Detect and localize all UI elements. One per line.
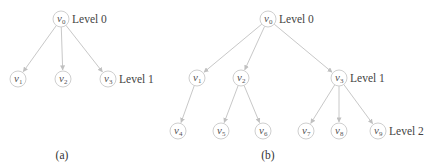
edge-v1-v4 bbox=[181, 86, 194, 123]
node-v3: v3 bbox=[331, 70, 347, 86]
nodes-layer: v0v1v2v3v0v1v2v3v4v5v6v7v8v9 bbox=[10, 11, 386, 139]
node-v7: v7 bbox=[298, 123, 314, 139]
node-v2: v2 bbox=[233, 70, 249, 86]
node-v4: v4 bbox=[170, 123, 186, 139]
node-v6: v6 bbox=[255, 123, 271, 139]
edge-v0-v2 bbox=[245, 26, 265, 70]
edge-v0-v1 bbox=[23, 26, 56, 72]
caption-b: (b) bbox=[261, 149, 275, 162]
node-v1: v1 bbox=[10, 71, 26, 87]
node-v5: v5 bbox=[213, 123, 229, 139]
edge-v2-v5 bbox=[224, 85, 238, 122]
node-v0: v0 bbox=[53, 11, 69, 27]
node-v1: v1 bbox=[189, 70, 205, 86]
node-v3: v3 bbox=[100, 71, 116, 87]
level-label: Level 0 bbox=[72, 13, 107, 25]
tree-diagrams: v0v1v2v3v0v1v2v3v4v5v6v7v8v9 Level 0Leve… bbox=[0, 0, 431, 168]
level-label: Level 1 bbox=[119, 73, 154, 85]
node-v9: v9 bbox=[370, 123, 386, 139]
node-v8: v8 bbox=[331, 123, 347, 139]
edge-v2-v6 bbox=[244, 85, 259, 122]
level-label: Level 0 bbox=[279, 13, 314, 25]
level-label: Level 2 bbox=[389, 125, 424, 137]
caption-a: (a) bbox=[56, 149, 69, 162]
level-label: Level 1 bbox=[350, 72, 385, 84]
edge-v3-v7 bbox=[311, 85, 335, 124]
edge-v3-v9 bbox=[344, 84, 373, 123]
edge-v0-v3 bbox=[274, 24, 332, 72]
edge-v0-v1 bbox=[204, 24, 262, 72]
edge-v0-v2 bbox=[61, 27, 62, 70]
node-v2: v2 bbox=[55, 71, 71, 87]
edge-v0-v3 bbox=[66, 25, 103, 72]
node-v0: v0 bbox=[260, 11, 276, 27]
